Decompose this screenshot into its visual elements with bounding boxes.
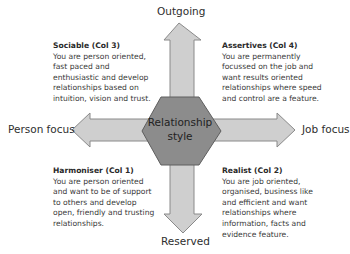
center-label: Relationship style [140, 115, 220, 143]
arrow-up-outgoing [164, 23, 201, 108]
center-label-line2: style [140, 129, 220, 143]
quadrant-body: You are person oriented, fast paced and … [53, 52, 155, 105]
quadrant-realist: Realist (Col 2) You are job oriented, or… [222, 166, 328, 240]
quadrant-body: You are permanently focussed on the job … [222, 52, 328, 105]
quadrant-harmoniser: Harmoniser (Col 1) You are person orient… [53, 166, 155, 230]
quadrant-title: Assertives (Col 4) [222, 41, 328, 52]
center-label-line1: Relationship [140, 115, 220, 129]
axis-label-job-focus: Job focus [302, 123, 350, 135]
quadrant-title: Realist (Col 2) [222, 166, 328, 177]
quadrant-body: You are person oriented and want to be o… [53, 177, 155, 230]
axis-label-reserved: Reserved [161, 235, 210, 247]
quadrant-title: Harmoniser (Col 1) [53, 166, 155, 177]
axis-label-outgoing: Outgoing [157, 5, 205, 17]
quadrant-body: You are job oriented, organised, busines… [222, 177, 328, 241]
quadrant-sociable: Sociable (Col 3) You are person oriented… [53, 41, 155, 105]
quadrant-assertives: Assertives (Col 4) You are permanently f… [222, 41, 328, 105]
quadrant-title: Sociable (Col 3) [53, 41, 155, 52]
axis-label-person-focus: Person focus [8, 123, 75, 135]
